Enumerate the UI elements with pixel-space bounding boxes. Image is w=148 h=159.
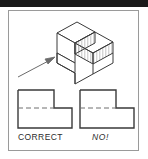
no-outline xyxy=(80,90,134,128)
view-correct: CORRECT xyxy=(16,88,74,130)
orthographic-views: CORRECT NO! xyxy=(8,10,139,151)
correct-outline xyxy=(18,90,72,128)
top-dark-band xyxy=(0,0,148,7)
correct-view-drawing xyxy=(16,88,74,130)
no-view-drawing xyxy=(78,88,136,130)
caption-correct: CORRECT xyxy=(18,132,63,142)
view-no: NO! xyxy=(78,88,136,130)
caption-no: NO! xyxy=(92,132,109,142)
